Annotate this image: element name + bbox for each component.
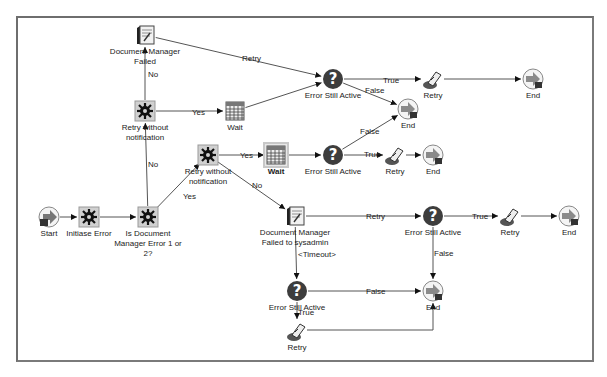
edge-label: False bbox=[360, 127, 380, 136]
end-icon[interactable] bbox=[422, 144, 444, 166]
edge-label: Yes bbox=[240, 151, 253, 160]
retry-icon[interactable] bbox=[286, 320, 308, 342]
end-icon[interactable] bbox=[558, 205, 580, 227]
edge-label: <Timeout> bbox=[298, 250, 336, 259]
node-label: End bbox=[373, 303, 493, 313]
notification-icon[interactable] bbox=[284, 205, 306, 227]
decision-icon[interactable]: ? bbox=[322, 68, 344, 90]
svg-text:?: ? bbox=[329, 146, 338, 164]
svg-text:?: ? bbox=[293, 282, 302, 300]
node-label: Document Manager Failed to sysadmin bbox=[235, 228, 355, 248]
node-label: End bbox=[373, 167, 493, 177]
start-icon[interactable] bbox=[38, 206, 60, 228]
function-icon[interactable] bbox=[137, 206, 159, 228]
function-icon[interactable] bbox=[197, 144, 219, 166]
decision-icon[interactable]: ? bbox=[422, 205, 444, 227]
edge-label: No bbox=[148, 70, 158, 79]
edge-label: True bbox=[472, 212, 488, 221]
edge-label: True bbox=[364, 150, 380, 159]
notification-icon[interactable] bbox=[134, 24, 156, 46]
svg-text:?: ? bbox=[329, 70, 338, 88]
node-label: Is Document Manager Error 1 or 2? bbox=[88, 229, 208, 259]
edge-label: True bbox=[383, 76, 399, 85]
end-icon[interactable] bbox=[397, 98, 419, 120]
node-label: Error Still Active bbox=[237, 303, 357, 313]
edge-label: Retry bbox=[366, 212, 385, 221]
svg-text:?: ? bbox=[429, 207, 438, 225]
edge-label: False bbox=[366, 287, 386, 296]
function-icon[interactable] bbox=[134, 100, 156, 122]
end-icon[interactable] bbox=[522, 68, 544, 90]
edge-label: Yes bbox=[192, 108, 205, 117]
function-icon[interactable] bbox=[78, 206, 100, 228]
edge-label: Yes bbox=[183, 192, 196, 201]
edge-label: False bbox=[365, 86, 385, 95]
node-label: Wait bbox=[175, 123, 295, 133]
retry-icon[interactable] bbox=[422, 68, 444, 90]
edge-label: No bbox=[252, 181, 262, 190]
wait-icon[interactable] bbox=[224, 100, 246, 122]
node-label: Retry bbox=[237, 343, 357, 353]
node-label: End bbox=[473, 91, 593, 101]
decision-icon[interactable]: ? bbox=[286, 280, 308, 302]
edge-label: True bbox=[298, 308, 314, 317]
node-label: Document Manager Failed bbox=[85, 47, 205, 67]
node-label: End bbox=[509, 228, 607, 238]
retry-icon[interactable] bbox=[384, 144, 406, 166]
retry-icon[interactable] bbox=[499, 205, 521, 227]
wait-icon[interactable] bbox=[265, 144, 287, 166]
edge-label: Retry bbox=[242, 54, 261, 63]
edge-label: No bbox=[148, 160, 158, 169]
end-icon[interactable] bbox=[422, 280, 444, 302]
edge-label: False bbox=[434, 249, 454, 258]
decision-icon[interactable]: ? bbox=[322, 144, 344, 166]
